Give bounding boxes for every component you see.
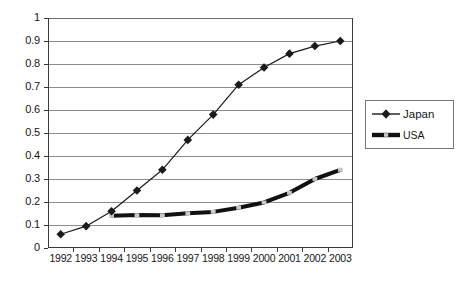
data-series-layer — [48, 18, 353, 248]
x-axis-tick-mark — [277, 248, 278, 252]
x-axis-tick-label: 2001 — [277, 252, 302, 264]
x-axis-tick-label: 1994 — [99, 252, 124, 264]
x-axis-tick-label: 1999 — [226, 252, 251, 264]
x-axis-tick-mark — [124, 248, 125, 252]
y-axis-tick-mark — [44, 41, 48, 42]
y-axis-tick-mark — [44, 110, 48, 111]
y-axis-tick-mark — [44, 248, 48, 249]
y-axis-tick-label: 0.6 — [0, 104, 40, 115]
y-axis-tick-mark — [44, 156, 48, 157]
x-axis-tick-mark — [251, 248, 252, 252]
x-axis-tick-label: 2003 — [328, 252, 353, 264]
y-axis-tick-label: 0.5 — [0, 127, 40, 138]
x-axis-tick-label: 1995 — [124, 252, 149, 264]
x-axis-tick-label: 1992 — [48, 252, 73, 264]
data-point-usa — [135, 213, 140, 217]
x-axis-tick-mark — [99, 248, 100, 252]
legend-item-usa: USA — [366, 125, 453, 145]
data-point-japan — [285, 49, 294, 58]
x-axis-tick-label: 1998 — [201, 252, 226, 264]
data-point-japan — [260, 63, 269, 72]
chart-legend: Japan USA — [365, 100, 454, 149]
y-axis-tick-label: 0.3 — [0, 173, 40, 184]
data-point-usa — [287, 191, 292, 195]
data-point-usa — [262, 201, 267, 205]
data-point-usa — [312, 177, 317, 181]
y-axis-tick-label: 0 — [0, 242, 40, 253]
y-axis-tick-label: 0.9 — [0, 35, 40, 46]
data-point-usa — [236, 206, 241, 210]
y-axis-tick-label: 0.1 — [0, 219, 40, 230]
series-line-usa — [112, 170, 341, 216]
y-axis-tick-label: 0.4 — [0, 150, 40, 161]
data-point-usa — [185, 211, 190, 215]
legend-label-usa: USA — [403, 129, 425, 141]
y-axis-tick-mark — [44, 18, 48, 19]
y-axis-tick-label: 1 — [0, 12, 40, 23]
data-point-japan — [311, 42, 320, 51]
x-axis-tick-mark — [175, 248, 176, 252]
series-line-japan — [61, 41, 341, 234]
x-axis-tick-label: 2000 — [251, 252, 276, 264]
x-axis-tick-mark — [328, 248, 329, 252]
x-axis-tick-label: 1997 — [175, 252, 200, 264]
data-point-usa — [160, 213, 165, 217]
legend-diamond-marker-icon — [371, 107, 401, 121]
chart-figure: 00.10.20.30.40.50.60.70.80.91 1992199319… — [0, 0, 460, 284]
x-axis-tick-mark — [73, 248, 74, 252]
x-axis-tick-mark — [226, 248, 227, 252]
y-axis-tick-mark — [44, 179, 48, 180]
x-axis-tick-label: 1993 — [73, 252, 98, 264]
x-axis-tick-label: 1996 — [150, 252, 175, 264]
data-point-japan — [56, 230, 65, 239]
y-axis-tick-label: 0.2 — [0, 196, 40, 207]
data-point-usa — [338, 168, 343, 172]
x-axis: 1992199319941995199619971998199920002001… — [48, 252, 353, 272]
x-axis-tick-mark — [302, 248, 303, 252]
x-axis-tick-mark — [201, 248, 202, 252]
x-axis-tick-label: 2002 — [302, 252, 327, 264]
y-axis-tick-mark — [44, 202, 48, 203]
x-axis-tick-mark — [150, 248, 151, 252]
legend-label-japan: Japan — [403, 108, 434, 120]
legend-thick-line-icon — [371, 128, 401, 142]
y-axis-tick-mark — [44, 64, 48, 65]
data-point-japan — [336, 37, 345, 46]
y-axis-tick-label: 0.8 — [0, 58, 40, 69]
data-point-usa — [211, 210, 216, 214]
y-axis-tick-mark — [44, 87, 48, 88]
y-axis: 00.10.20.30.40.50.60.70.80.91 — [0, 0, 44, 284]
legend-item-japan: Japan — [366, 104, 453, 124]
y-axis-tick-mark — [44, 225, 48, 226]
y-axis-tick-label: 0.7 — [0, 81, 40, 92]
data-point-japan — [82, 222, 91, 231]
series-markers-japan — [56, 37, 344, 239]
y-axis-tick-mark — [44, 133, 48, 134]
